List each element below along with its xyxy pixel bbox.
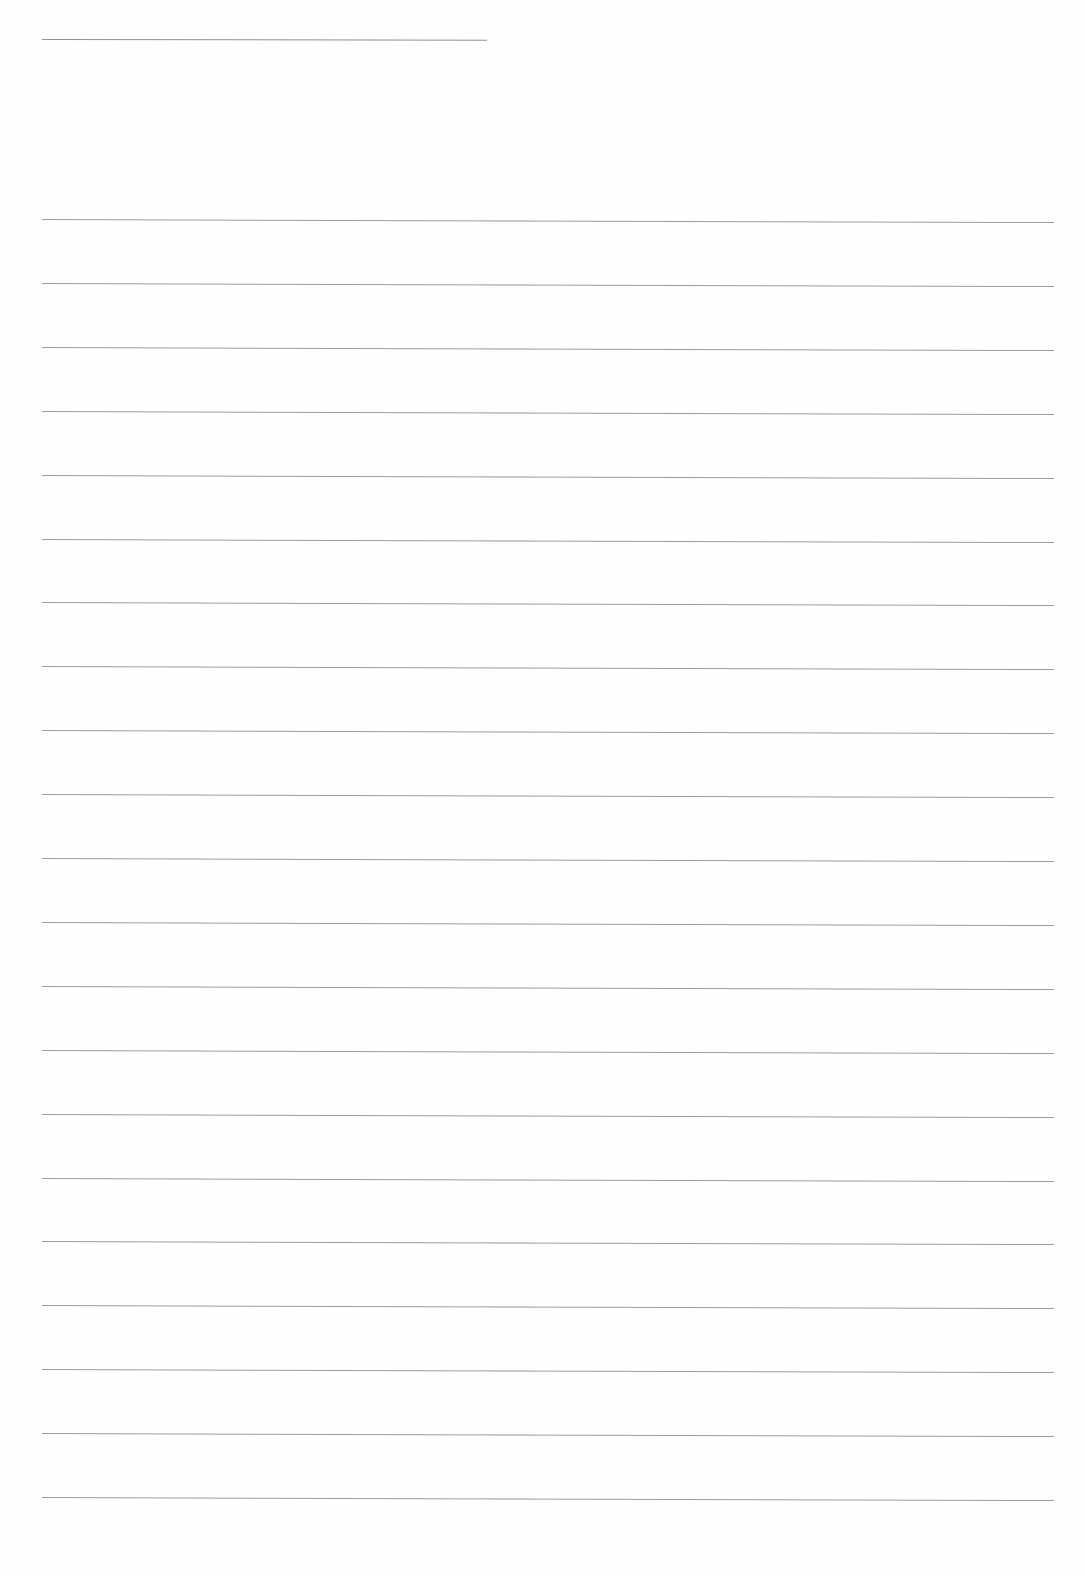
ruled-line bbox=[42, 1433, 1054, 1437]
ruled-line bbox=[42, 794, 1054, 798]
ruled-line bbox=[42, 1497, 1054, 1501]
ruled-line bbox=[42, 283, 1054, 287]
ruled-line bbox=[42, 602, 1054, 606]
lined-paper-page bbox=[0, 0, 1085, 1576]
ruled-line bbox=[42, 922, 1054, 926]
ruled-line bbox=[42, 666, 1054, 670]
ruled-line bbox=[42, 1369, 1054, 1373]
ruled-line bbox=[42, 1050, 1054, 1054]
ruled-line bbox=[42, 1178, 1054, 1182]
ruled-line bbox=[42, 1114, 1054, 1118]
ruled-line bbox=[42, 730, 1054, 734]
ruled-line bbox=[42, 219, 1054, 223]
header-rule-line bbox=[42, 39, 487, 41]
ruled-line bbox=[42, 858, 1054, 862]
ruled-line bbox=[42, 347, 1054, 351]
ruled-line bbox=[42, 539, 1054, 543]
ruled-line bbox=[42, 475, 1054, 479]
ruled-line bbox=[42, 411, 1054, 415]
ruled-line bbox=[42, 986, 1054, 990]
ruled-line bbox=[42, 1241, 1054, 1245]
ruled-line bbox=[42, 1305, 1054, 1309]
